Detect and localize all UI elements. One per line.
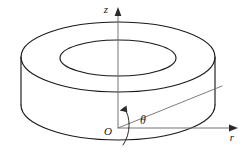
theta-angle-label: θ: [140, 113, 146, 127]
r-axis-label: r: [230, 131, 235, 143]
annulus-diagram-canvas: z r O θ: [0, 0, 246, 157]
z-axis-arrowhead: [115, 7, 122, 16]
z-axis-label: z: [103, 3, 109, 15]
origin-label: O: [104, 125, 112, 137]
cylindrical-coordinates-figure: z r O θ z r O θ Annular disk in cylindri…: [0, 0, 246, 157]
